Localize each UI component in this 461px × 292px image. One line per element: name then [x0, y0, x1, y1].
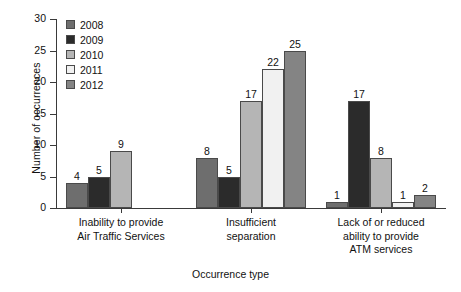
y-axis-tick: 10: [50, 145, 56, 146]
bar-value-label: 1: [400, 189, 406, 201]
bar: 1: [392, 202, 414, 208]
bar-value-label: 5: [226, 164, 232, 176]
y-axis-tick: 15: [50, 114, 56, 115]
bar-value-label: 8: [378, 145, 384, 157]
bar-value-label: 17: [245, 88, 257, 100]
x-axis-title: Occurrence type: [0, 268, 461, 280]
bar: 17: [348, 101, 370, 208]
bar-value-label: 1: [334, 189, 340, 201]
y-axis-tick: 20: [50, 82, 56, 83]
bar: 22: [262, 69, 284, 208]
legend-swatch-icon: [66, 35, 75, 44]
bar: 25: [284, 51, 306, 209]
legend-swatch-icon: [66, 50, 75, 59]
bar: 8: [370, 158, 392, 208]
bar-value-label: 4: [74, 170, 80, 182]
bar: 8: [196, 158, 218, 208]
bar: 2: [414, 195, 436, 208]
x-axis-tick: [251, 208, 252, 213]
plot-area: 051015202530 45985172225117812: [56, 19, 446, 208]
y-axis-tick: 0: [50, 208, 56, 209]
x-axis-tick: [381, 208, 382, 213]
legend: 20082009201020112012: [66, 18, 103, 91]
y-axis-tick-label: 15: [34, 107, 46, 120]
y-axis-tick-label: 20: [34, 75, 46, 88]
bar: 5: [88, 177, 110, 209]
y-axis-tick: 5: [50, 177, 56, 178]
bar-chart: Number of occurrences 051015202530 45985…: [0, 0, 461, 292]
legend-item: 2011: [66, 63, 103, 76]
bar: 9: [110, 151, 132, 208]
bar: 5: [218, 177, 240, 209]
bar: 4: [66, 183, 88, 208]
legend-item: 2010: [66, 48, 103, 61]
legend-item: 2012: [66, 78, 103, 91]
bar-value-label: 17: [353, 88, 365, 100]
bar: 1: [326, 202, 348, 208]
bar-value-label: 5: [96, 164, 102, 176]
bar-value-label: 25: [289, 38, 301, 50]
y-axis-tick-label: 30: [34, 12, 46, 25]
x-axis-tick: [121, 208, 122, 213]
bar-value-label: 8: [204, 145, 210, 157]
bar-value-label: 22: [267, 56, 279, 68]
y-axis-tick-label: 25: [34, 44, 46, 57]
y-axis-tick-label: 0: [40, 201, 46, 214]
bar-value-label: 2: [422, 182, 428, 194]
legend-item: 2009: [66, 33, 103, 46]
legend-swatch-icon: [66, 65, 75, 74]
y-axis-tick: 30: [50, 19, 56, 20]
legend-item-label: 2012: [80, 79, 103, 91]
legend-swatch-icon: [66, 20, 75, 29]
legend-swatch-icon: [66, 80, 75, 89]
legend-item-label: 2011: [80, 64, 103, 76]
category-label: Lack of or reduced ability to provide AT…: [301, 216, 461, 257]
legend-item-label: 2010: [80, 49, 103, 61]
legend-item-label: 2009: [80, 34, 103, 46]
y-axis-line: [56, 19, 57, 208]
legend-item: 2008: [66, 18, 103, 31]
y-axis-tick-label: 5: [40, 170, 46, 183]
bar: 17: [240, 101, 262, 208]
y-axis-tick-label: 10: [34, 138, 46, 151]
legend-item-label: 2008: [80, 19, 103, 31]
y-axis-tick: 25: [50, 51, 56, 52]
bar-value-label: 9: [118, 138, 124, 150]
